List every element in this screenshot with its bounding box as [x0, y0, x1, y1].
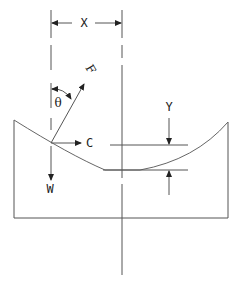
y-dimension: Y: [103, 100, 188, 195]
force-vectors: F C W: [46, 62, 98, 196]
force-diagram: X Y F C W θ: [0, 0, 239, 281]
f-arrow-icon: [51, 84, 84, 143]
container-outline: [14, 120, 228, 218]
y-label: Y: [165, 100, 173, 114]
x-label: X: [80, 16, 88, 30]
c-label: C: [86, 136, 93, 150]
x-dimension: X: [52, 16, 121, 30]
theta-angle: θ: [52, 89, 71, 110]
w-label: W: [46, 182, 54, 196]
theta-label: θ: [54, 96, 61, 110]
f-label: F: [82, 62, 98, 76]
